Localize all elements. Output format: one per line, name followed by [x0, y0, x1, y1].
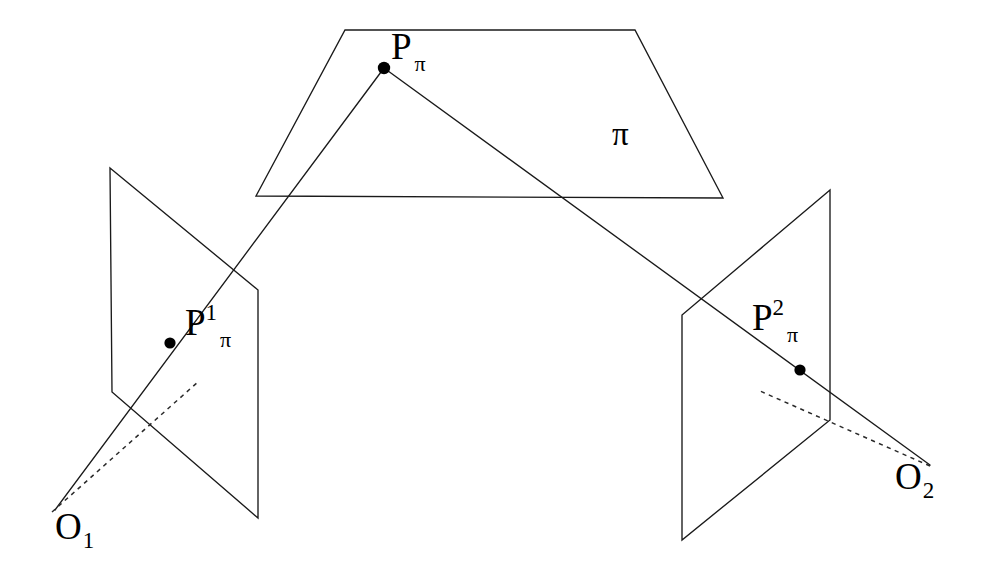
plane-pi-outline	[256, 30, 723, 198]
image-point-right-label-subscript: π	[787, 322, 798, 347]
image-point-right-label-superscript: 2	[773, 295, 785, 320]
camera-center-left-label: O1	[55, 508, 93, 545]
plane-pi-label: π	[612, 118, 629, 151]
scene-point-label: Pπ	[391, 28, 423, 65]
image-plane-right-outline	[682, 190, 830, 540]
image-point-right-dot	[794, 364, 805, 375]
scene-point-label-subscript: π	[415, 51, 426, 76]
image-point-right-label-base: P	[752, 297, 773, 338]
scene-point-label-base: P	[391, 26, 412, 67]
plane-pi-label-text: π	[612, 116, 629, 152]
camera-center-right-label-base: O	[895, 456, 922, 497]
projection-ray-right	[384, 68, 930, 465]
image-point-left-dot	[164, 337, 175, 348]
projection-ray-left	[55, 68, 384, 510]
camera-center-left-label-subscript: 1	[83, 528, 95, 553]
image-plane-left-outline	[110, 168, 258, 518]
camera-center-right-label: O2	[895, 458, 933, 495]
image-point-left-label-superscript: 1	[206, 300, 218, 325]
optical-axis-dashed-right	[760, 391, 930, 466]
scene-point-dot	[378, 62, 390, 74]
diagram-svg	[0, 0, 981, 587]
camera-center-right-label-subscript: 2	[923, 478, 935, 503]
camera-center-left-label-base: O	[55, 506, 82, 547]
image-point-left-label: P1π	[185, 303, 228, 341]
figure-canvas: Pπ π P1π P2π O1 O2	[0, 0, 981, 587]
image-point-right-label: P2π	[752, 298, 795, 336]
image-point-left-label-base: P	[185, 302, 206, 343]
image-point-left-label-subscript: π	[220, 327, 231, 352]
optical-axis-dashed-left	[52, 381, 199, 512]
